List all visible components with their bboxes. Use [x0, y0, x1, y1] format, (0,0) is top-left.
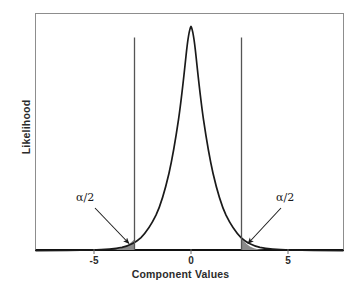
xtick-label-plus5: 5 [268, 255, 308, 266]
plot-graphics [0, 0, 361, 298]
alpha-over-two-right-label: α/2 [276, 191, 294, 204]
x-axis-label: Component Values [0, 268, 361, 280]
xtick-label-minus5: -5 [74, 255, 114, 266]
alpha-over-two-left-label: α/2 [76, 191, 94, 204]
y-axis-label: Likelihood [20, 57, 32, 197]
likelihood-curve [36, 26, 343, 250]
figure-container: α/2 α/2 -5 0 5 Component Values Likeliho… [0, 0, 361, 298]
alpha-left-arrow [95, 208, 129, 244]
alpha-right-arrow [248, 208, 281, 244]
xtick-label-zero: 0 [171, 255, 211, 266]
